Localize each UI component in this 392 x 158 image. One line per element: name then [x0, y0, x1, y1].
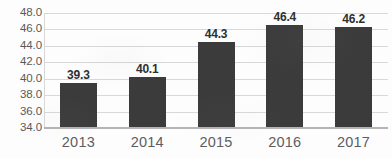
x-axis-tick-label-2014: 2014 — [117, 135, 177, 150]
y-axis-tick-label: 44.0 — [4, 40, 42, 52]
x-axis-tick-label-2016: 2016 — [255, 135, 315, 150]
bar-2017 — [335, 27, 372, 127]
y-axis-tick-label: 42.0 — [4, 56, 42, 68]
bar-chart-figure: 48.046.044.042.040.038.036.034.0 2013201… — [0, 0, 392, 158]
y-axis-tick-label: 36.0 — [4, 106, 42, 118]
bar-value-label-2015: 44.3 — [186, 28, 246, 40]
bar-2013 — [60, 83, 97, 127]
bar-value-label-2013: 39.3 — [48, 69, 108, 81]
x-axis-tick-label-2017: 2017 — [324, 135, 384, 150]
x-axis-tick-label-2013: 2013 — [48, 135, 108, 150]
bar-2016 — [266, 25, 303, 127]
y-axis-tick-label: 40.0 — [4, 73, 42, 85]
x-axis: 20132014201520162017 — [44, 131, 388, 156]
y-axis-tick-label: 46.0 — [4, 23, 42, 35]
y-axis-tick-label: 48.0 — [4, 7, 42, 19]
x-axis-tick-label-2015: 2015 — [186, 135, 246, 150]
gridline — [44, 128, 388, 129]
bar-2015 — [198, 42, 235, 127]
y-axis-tick-label: 34.0 — [4, 122, 42, 134]
bar-value-label-2017: 46.2 — [324, 13, 384, 25]
y-axis: 48.046.044.042.040.038.036.034.0 — [0, 0, 42, 158]
bar-value-label-2016: 46.4 — [255, 11, 315, 23]
y-axis-tick-label: 38.0 — [4, 89, 42, 101]
bar-value-label-2014: 40.1 — [117, 63, 177, 75]
bar-2014 — [129, 77, 166, 127]
